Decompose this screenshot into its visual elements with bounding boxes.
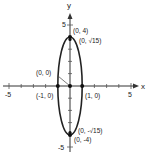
point-covertex-right <box>80 84 84 88</box>
label-vertex-top: (0, 4) <box>73 27 88 35</box>
x-min-tick-label: -5 <box>5 91 11 98</box>
x-max-tick-label: 5 <box>128 91 132 98</box>
point-vertex-bottom <box>68 133 72 137</box>
y-axis-label: y <box>67 1 71 10</box>
label-covertex-right: (1, 0) <box>85 92 100 100</box>
label-center: (0, 0) <box>36 69 51 77</box>
x-axis-label: x <box>141 82 145 91</box>
label-focus-top: (0, √15) <box>79 37 101 45</box>
label-focus-bottom: (0, -√15) <box>78 127 103 135</box>
point-center <box>68 84 72 88</box>
point-covertex-left <box>56 84 60 88</box>
x-axis-arrow-icon <box>133 84 139 89</box>
ellipse-graph: y x -5 5 5 -5 (0, 4) (0, √15) (0, 0) (-1… <box>0 0 151 156</box>
center-leader-line <box>58 76 70 86</box>
label-vertex-bottom: (0, -4) <box>74 136 91 144</box>
label-covertex-left: (-1, 0) <box>36 92 53 100</box>
y-min-tick-label: -5 <box>58 144 64 151</box>
y-axis-arrow-icon <box>68 13 73 19</box>
point-focus-top <box>68 38 71 41</box>
y-max-tick-label: 5 <box>62 21 66 28</box>
